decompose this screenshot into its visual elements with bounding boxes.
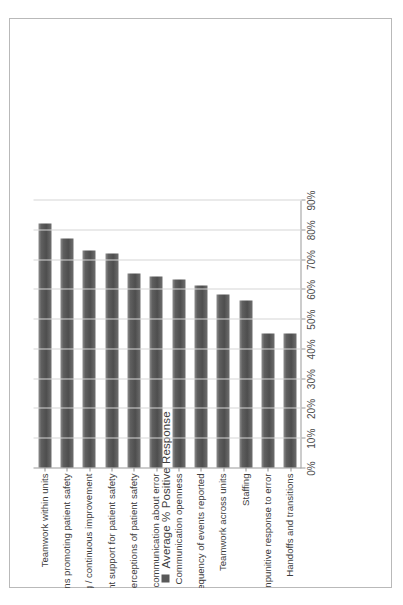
bar — [261, 333, 274, 467]
category-tick — [66, 467, 67, 471]
value-tick — [301, 259, 305, 260]
value-tick-label: 70% — [305, 250, 316, 270]
bar-chart: Average % Positive Response Teamwork wit… — [9, 18, 392, 588]
value-tick-label: 40% — [305, 339, 316, 359]
rotated-chart-host: Average % Positive Response Teamwork wit… — [9, 18, 392, 588]
category-tick — [156, 467, 157, 471]
category-tick — [290, 467, 291, 471]
gridline — [33, 288, 301, 289]
bar — [194, 285, 207, 467]
value-tick — [301, 199, 305, 200]
gridline — [33, 437, 301, 438]
bar — [105, 253, 118, 467]
category-tick — [267, 467, 268, 471]
bar — [216, 294, 229, 467]
category-tick — [133, 467, 134, 471]
category-tick — [245, 467, 246, 471]
category-tick — [44, 467, 45, 471]
value-tick — [301, 348, 305, 349]
category-label: Staffing — [239, 473, 252, 505]
value-tick — [301, 378, 305, 379]
category-label: Handoffs and transitions — [283, 473, 296, 576]
bar-series: Teamwork within unitsSupervisor / Manage… — [33, 200, 300, 467]
value-tick-label: 80% — [305, 220, 316, 240]
category-tick — [200, 467, 201, 471]
value-tick-label: 30% — [305, 369, 316, 389]
value-tick — [301, 318, 305, 319]
value-tick-label: 60% — [305, 279, 316, 299]
category-label: Teamwork across units — [216, 473, 229, 571]
bar — [172, 279, 185, 467]
value-tick — [301, 229, 305, 230]
category-label: Frequency of events reported — [194, 473, 207, 588]
category-label: Management support for patient safety — [105, 473, 118, 588]
plot-area: Teamwork within unitsSupervisor / Manage… — [33, 200, 301, 468]
value-tick-label: 0% — [305, 461, 316, 475]
category-tick — [111, 467, 112, 471]
bar — [82, 250, 95, 467]
value-tick-label: 10% — [305, 428, 316, 448]
value-tick — [301, 407, 305, 408]
gridline — [33, 318, 301, 319]
category-label: Communication openness — [172, 473, 185, 584]
gridline — [33, 407, 301, 408]
value-tick-label: 50% — [305, 309, 316, 329]
gridline — [33, 259, 301, 260]
bar — [239, 300, 252, 467]
category-tick — [223, 467, 224, 471]
gridline — [33, 199, 301, 200]
gridline — [33, 229, 301, 230]
category-label: Feedback and communication about error — [149, 473, 162, 588]
bar — [60, 238, 73, 467]
value-tick — [301, 288, 305, 289]
gridline — [33, 378, 301, 379]
page-canvas: Average % Positive Response Teamwork wit… — [0, 0, 403, 605]
category-tick — [89, 467, 90, 471]
gridline — [33, 348, 301, 349]
value-tick-label: 90% — [305, 190, 316, 210]
category-label: Organizational learning / continuous imp… — [82, 473, 95, 588]
category-label: Supervisor / Manager expectations and ac… — [60, 473, 73, 588]
bar — [283, 333, 296, 467]
category-label: Nonpunitive response to error — [261, 473, 274, 588]
category-label: Teamwork within units — [38, 473, 51, 567]
category-tick — [178, 467, 179, 471]
value-tick-label: 20% — [305, 398, 316, 418]
value-tick — [301, 467, 305, 468]
value-tick — [301, 437, 305, 438]
category-label: Overall perceptions of patient safety — [127, 473, 140, 588]
